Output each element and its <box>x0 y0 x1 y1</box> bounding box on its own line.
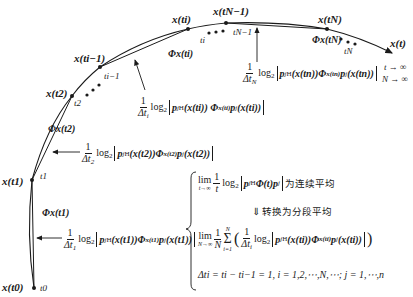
phi-label-ti: Φx(ti) <box>168 49 193 59</box>
phi-label-t1: Φx(t1) <box>42 208 69 218</box>
label-x-t: x(t) <box>390 38 406 49</box>
label-t2: t2 <box>74 99 81 108</box>
formula-seg-2: 1Δt2 log2 pjH(x(t2))Φx(t2)pj(x(t2)) <box>82 142 213 166</box>
summary-line-definition: Δti = ti − ti−1 = 1, i = 1,2,⋯,N,⋯; j = … <box>198 270 384 280</box>
label-x-t1: x(t1) <box>2 176 23 187</box>
down-double-arrow-icon: ⇓ <box>252 206 260 217</box>
label-tN-1: tN−1 <box>233 28 252 37</box>
label-x-t0: x(t0) <box>2 282 23 293</box>
label-x-t2: x(t2) <box>46 88 67 99</box>
label-x-tN-1: x(tN−1) <box>213 6 249 17</box>
label-ti: ti <box>200 36 205 45</box>
summary-line-convert: ⇓ 转换为分段平均 <box>252 204 332 218</box>
formula-seg-1: 1Δt1 log2 pjH(x(t1))Φx(t1)pj(x(t1)) <box>64 228 195 252</box>
limit-t: t → ∞ <box>384 63 406 72</box>
label-x-ti: x(ti) <box>172 14 191 25</box>
summary-line-piecewise: limN→∞ 1N NΣi=1 ( 1Δti log2 pjH(x(ti))Φx… <box>198 226 372 252</box>
label-t1: t1 <box>40 172 47 181</box>
summary-line-continuous: limt→∞ 1t log2 pjHΦ(t)pj 为连续平均 <box>198 172 335 194</box>
limit-N: N → ∞ <box>382 75 408 84</box>
label-x-ti-1: x(ti−1) <box>74 53 105 64</box>
label-tN: tN <box>344 47 353 56</box>
label-x-tN: x(tN) <box>318 14 342 25</box>
phi-label-t2: Φx(t2) <box>48 124 75 134</box>
label-ti-1: ti−1 <box>104 72 120 81</box>
formula-seg-N: 1ΔtN log2 pjH(x(tn))Φx(tn)pj(x(tn)) <box>243 62 377 86</box>
label-t0: t0 <box>40 284 47 293</box>
phi-label-tN: Φx(tN) <box>312 35 342 45</box>
formula-seg-i: 1Δti log2 pjH(x(ti)) Φx(ti)pj(x(ti)) <box>138 96 264 120</box>
